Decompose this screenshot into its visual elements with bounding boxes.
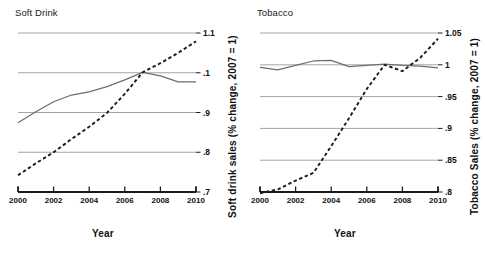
y-axis-title-label-soft-drink: Soft drink sales (% change, 2007 = 1) xyxy=(227,35,238,218)
x-tick-label-4: 2008 xyxy=(394,196,412,205)
y-axis-title-tobacco: Tobacco Sales (% change, 2007 = 1) xyxy=(466,0,482,253)
x-tick-label-4: 2008 xyxy=(152,196,170,205)
plot-area-tobacco: 200020022004200620082010.8.85.9.9511.05 xyxy=(242,0,484,253)
plot-area-soft-drink: 200020022004200620082010.7.8.9.11.1 xyxy=(0,0,242,253)
x-tick-label-2: 2004 xyxy=(322,196,340,205)
panel-tobacco: Tobacco 200020022004200620082010.8.85.9.… xyxy=(242,0,484,253)
x-tick-label-1: 2002 xyxy=(45,196,63,205)
x-axis-title-tobacco: Year xyxy=(242,228,484,239)
x-tick-label-1: 2002 xyxy=(287,196,305,205)
figure-panel-group: Soft Drink 200020022004200620082010.7.8.… xyxy=(0,0,485,253)
y-tick-label-4: 1.1 xyxy=(203,28,215,38)
y-tick-label-2: .9 xyxy=(445,123,452,133)
y-axis-title-label-tobacco: Tobacco Sales (% change, 2007 = 1) xyxy=(469,38,480,215)
y-axis-title-soft-drink: Soft drink sales (% change, 2007 = 1) xyxy=(224,0,240,253)
x-tick-label-0: 2000 xyxy=(251,196,269,205)
y-tick-label-0: .8 xyxy=(445,187,452,197)
y-tick-label-1: .8 xyxy=(203,147,210,157)
series-line-solid-series xyxy=(18,72,196,122)
x-tick-label-3: 2006 xyxy=(116,196,134,205)
y-tick-label-2: .9 xyxy=(203,108,210,118)
x-axis-title-soft-drink: Year xyxy=(0,228,242,239)
y-tick-label-3: .95 xyxy=(445,92,457,102)
y-tick-label-1: .85 xyxy=(445,155,457,165)
y-tick-label-3: .1 xyxy=(203,68,210,78)
series-line-dashed-series xyxy=(18,41,196,175)
x-tick-label-3: 2006 xyxy=(358,196,376,205)
y-tick-label-0: .7 xyxy=(203,187,210,197)
y-tick-label-5: 1.05 xyxy=(445,28,462,38)
x-tick-label-2: 2004 xyxy=(80,196,98,205)
x-tick-label-0: 2000 xyxy=(9,196,27,205)
series-line-dashed-series xyxy=(260,39,438,194)
panel-soft-drink: Soft Drink 200020022004200620082010.7.8.… xyxy=(0,0,242,253)
y-tick-label-4: 1 xyxy=(445,60,450,70)
